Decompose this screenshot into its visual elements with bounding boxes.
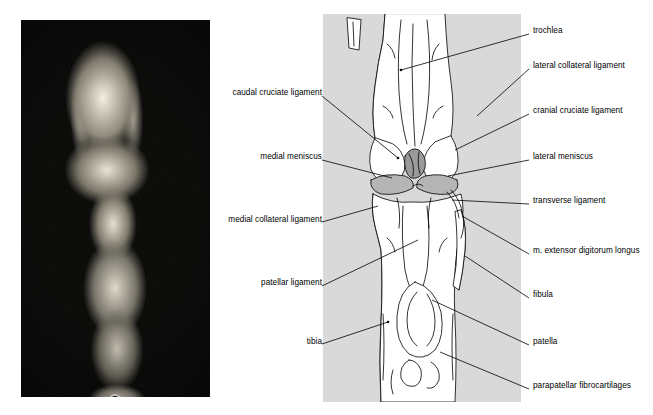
label-tibia: tibia <box>146 337 322 347</box>
label-cranial-cruciate-ligament: cranial cruciate ligament <box>533 106 623 116</box>
label-lateral-meniscus: lateral meniscus <box>533 152 593 162</box>
photo-drill-hole <box>111 396 119 397</box>
anatomy-figure: caudal cruciate ligament medial meniscus… <box>0 0 653 415</box>
label-trochlea: trochlea <box>533 26 563 36</box>
label-fibula: fibula <box>533 290 553 300</box>
label-m-extensor-digitorum-longus: m. extensor digitorum longus <box>533 246 640 256</box>
cruciate-ligament-mass <box>405 149 426 178</box>
label-parapatellar-fibrocartilages: parapatellar fibrocartilages <box>533 381 631 391</box>
label-lateral-collateral-ligament: lateral collateral ligament <box>533 61 625 71</box>
labelled-line-drawing <box>323 14 521 402</box>
stifle-joint-drawing <box>323 14 521 402</box>
label-caudal-cruciate-ligament: caudal cruciate ligament <box>146 88 322 98</box>
label-patellar-ligament: patellar ligament <box>146 278 322 288</box>
label-medial-collateral-ligament: medial collateral ligament <box>146 215 322 225</box>
label-transverse-ligament: transverse ligament <box>533 196 605 206</box>
label-medial-meniscus: medial meniscus <box>146 152 322 162</box>
label-patella: patella <box>533 337 557 347</box>
